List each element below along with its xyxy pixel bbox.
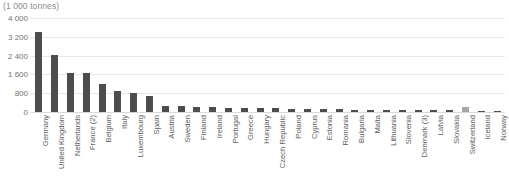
- bar: [494, 111, 501, 112]
- category-label: Italy: [121, 115, 129, 129]
- bar: [130, 93, 137, 112]
- bar: [114, 91, 121, 112]
- bar: [209, 107, 216, 112]
- bar: [336, 109, 343, 112]
- bar: [430, 110, 437, 112]
- category-label: Estonia: [326, 115, 334, 140]
- bar: [478, 111, 485, 112]
- y-axis-tick-label: 1 600: [8, 70, 28, 79]
- y-axis-tick-label: 0: [24, 108, 28, 117]
- bar: [178, 106, 185, 112]
- y-axis-tick-label: 4 000: [8, 14, 28, 23]
- bar: [225, 108, 232, 112]
- category-label: Switzerland: [469, 115, 477, 154]
- bar: [367, 110, 374, 112]
- bar: [193, 107, 200, 112]
- bar: [383, 110, 390, 112]
- category-label: Portugal: [232, 115, 240, 143]
- category-label: Slovakia: [453, 115, 461, 144]
- bar: [99, 84, 106, 112]
- bar: [51, 55, 58, 112]
- y-axis-tick-label: 2 400: [8, 51, 28, 60]
- y-axis-tick-label: 800: [15, 89, 28, 98]
- category-label: Hungary: [263, 115, 271, 144]
- bar: [415, 110, 422, 112]
- category-label: United Kingdom: [58, 115, 66, 169]
- category-label: Latvia: [437, 115, 445, 135]
- category-label: Luxembourg: [137, 115, 145, 157]
- category-label: France (2): [89, 115, 97, 150]
- category-label: Spain: [153, 115, 161, 134]
- bar: [304, 109, 311, 112]
- bar: [462, 107, 469, 112]
- bar: [288, 109, 295, 112]
- category-labels: GermanyUnited KingdomNetherlandsFrance (…: [31, 113, 505, 182]
- category-label: Finland: [200, 115, 208, 140]
- category-label: Denmark (3): [421, 115, 429, 157]
- category-label: Lithuania: [390, 115, 398, 146]
- category-label: Sweden: [184, 115, 192, 142]
- bar: [162, 106, 169, 112]
- category-label: Cyprus: [311, 115, 319, 139]
- category-label: Belgium: [105, 115, 113, 142]
- bar: [241, 108, 248, 112]
- category-label: Slovenia: [405, 115, 413, 144]
- bars-layer: [31, 18, 505, 112]
- category-label: Poland: [295, 115, 303, 139]
- bar: [83, 73, 90, 112]
- category-label: Bulgaria: [358, 115, 366, 143]
- category-label: Malta: [374, 115, 382, 134]
- bar: [446, 110, 453, 112]
- bar: [399, 110, 406, 112]
- category-label: Netherlands: [74, 115, 82, 156]
- chart-title: (1 000 tonnes): [3, 1, 59, 11]
- bar: [272, 108, 279, 112]
- bar: [67, 73, 74, 112]
- category-label: Austria: [168, 115, 176, 139]
- bar: [351, 110, 358, 112]
- category-label: Ireland: [216, 115, 224, 138]
- bar: [146, 96, 153, 112]
- category-label: Romania: [342, 115, 350, 145]
- category-label: Greece: [247, 115, 255, 140]
- bar: [257, 108, 264, 112]
- category-label: Norway: [500, 115, 508, 141]
- y-axis: 08001 6002 4003 2004 000: [0, 18, 28, 112]
- category-label: Czech Republic: [279, 115, 287, 168]
- y-axis-tick-label: 3 200: [8, 32, 28, 41]
- bar: [320, 109, 327, 112]
- bar-chart: (1 000 tonnes) 08001 6002 4003 2004 000 …: [0, 0, 509, 182]
- category-label: Germany: [42, 115, 50, 146]
- category-label: Iceland: [484, 115, 492, 140]
- bar: [35, 32, 42, 112]
